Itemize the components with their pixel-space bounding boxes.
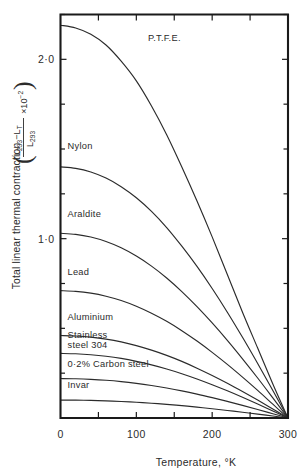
thermal-contraction-chart: P.T.F.E.NylonAralditeLeadAluminiumStainl…	[0, 0, 308, 476]
curve-label-5: Stainless	[68, 330, 108, 340]
curve-label-4: Aluminium	[68, 312, 114, 322]
formula-close-paren: )	[8, 81, 37, 90]
y-axis-formula: ( L293−LT L293 ×10−2 )	[8, 81, 37, 164]
formula-numerator: L293−LT	[12, 125, 23, 156]
x-tick-label-300: 300	[279, 428, 298, 440]
curve-label-2: Araldite	[68, 209, 102, 219]
curve-label-1: Nylon	[68, 141, 93, 151]
curve-series-3	[61, 291, 289, 418]
curve-label-0: P.T.F.E.	[148, 33, 181, 43]
curve-series-1	[61, 167, 289, 418]
x-tick-label-200: 200	[203, 428, 222, 440]
curve-label-6: 0·2% Carbon steel	[68, 359, 149, 369]
y-tick-label-2: 2·0	[38, 53, 54, 65]
formula-denominator: L293	[25, 131, 36, 147]
x-axis-title: Temperature, °K	[156, 456, 236, 468]
curve-labels-layer: P.T.F.E.NylonAralditeLeadAluminiumStainl…	[68, 33, 181, 390]
chart-svg: P.T.F.E.NylonAralditeLeadAluminiumStainl…	[0, 0, 308, 476]
curve-label-7: Invar	[68, 380, 90, 390]
y-tick-label-1: 1·0	[38, 233, 54, 245]
x-tick-label-0: 0	[57, 428, 63, 440]
curve-label-5-line2: steel 304	[68, 340, 108, 350]
curve-label-3: Lead	[68, 267, 90, 277]
formula-multiplier: ×10−2	[17, 91, 29, 114]
x-tick-label-100: 100	[127, 428, 146, 440]
